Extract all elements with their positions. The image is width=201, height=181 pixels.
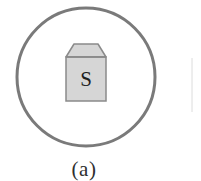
source-box-label: S (80, 67, 92, 91)
source-box-cap (66, 44, 106, 57)
figure-caption: (a) (72, 157, 97, 181)
figure-canvas: S (a) (0, 0, 201, 181)
figure-panel-a: S (a) (0, 0, 201, 181)
